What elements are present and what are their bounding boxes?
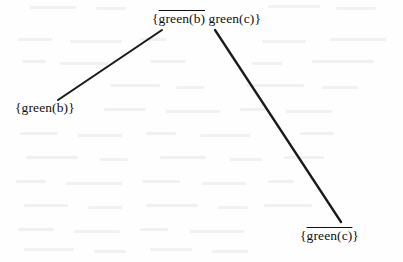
root-term-overlined: green(b) [159,11,206,26]
root-open-brace: { [152,11,159,26]
root-term-plain: green(c) [209,11,255,26]
left-child-term-plain: green(b) [22,100,69,115]
edge-root-to-right-child [215,30,341,222]
root-node: {green(b) green(c)} [152,12,261,26]
left-child-node: {green(b)} [15,101,75,115]
root-close-brace: } [254,11,261,26]
right-child-node: {green(c)} [300,229,359,243]
left-child-close-brace: } [68,100,75,115]
tree-diagram-figure: {green(b) green(c)} {green(b)} {green(c)… [0,0,403,262]
left-child-open-brace: { [15,100,22,115]
edge-root-to-left-child [58,30,162,100]
right-child-open-brace: { [300,228,307,243]
right-child-close-brace: } [352,228,359,243]
right-child-term-overlined: green(c) [307,228,353,243]
